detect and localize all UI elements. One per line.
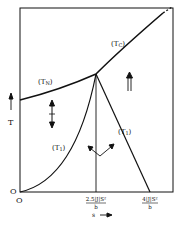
label-tn: (TN) [38,78,53,86]
curve-tn [20,74,96,100]
origin-y-label: O [10,187,17,196]
x-axis-arrow-icon [100,213,112,217]
plot-frame [20,8,173,192]
label-tc: (TC) [111,40,125,48]
x-tick-1-denominator: b [94,204,98,210]
label-t2: (T1) [118,128,132,136]
curve-tc [96,13,163,74]
y-axis-label: T [8,118,14,127]
x-axis-label: s [92,211,95,218]
x-tick-1-numerator: 2.5|J|S² [86,196,107,203]
origin-x-label: O [16,196,23,205]
ferro-arrow-icon [127,72,133,91]
phase-diagram: (TN) (TC) (T1) (T1) T O O 2.5|J|S² b 4|J… [0,0,181,232]
y-axis-arrow-icon [9,93,13,110]
curve-t1 [20,74,96,192]
label-t1: (T1) [52,144,66,152]
canted-arrow-icon [88,144,114,156]
x-tick-2-numerator: 4|J|S² [142,196,157,203]
x-tick-2-denominator: b [148,204,152,210]
antiferro-arrow-icon [49,100,55,128]
